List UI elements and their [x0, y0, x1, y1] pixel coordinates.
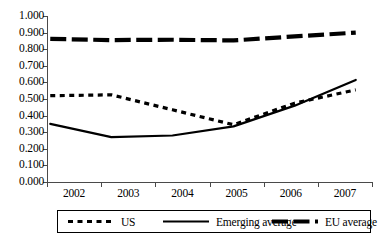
series-line-emerging-average: [50, 80, 356, 137]
series-line-eu-average: [50, 33, 356, 41]
legend-item-label: EU average: [325, 216, 377, 228]
legend-swatch-icon: [272, 216, 318, 227]
series-line-us: [50, 90, 356, 125]
line-chart: 1.0000.9000.8000.7000.6000.5000.4000.300…: [0, 0, 379, 242]
legend-item-eu-average[interactable]: EU average: [272, 211, 377, 232]
legend-item-us[interactable]: US: [68, 211, 135, 232]
legend-swatch-icon: [68, 216, 114, 227]
legend-swatch-icon: [163, 216, 209, 227]
chart-legend: USEmerging averageEU average: [57, 210, 371, 233]
series-plot: [0, 0, 379, 242]
legend-item-label: US: [121, 216, 135, 228]
